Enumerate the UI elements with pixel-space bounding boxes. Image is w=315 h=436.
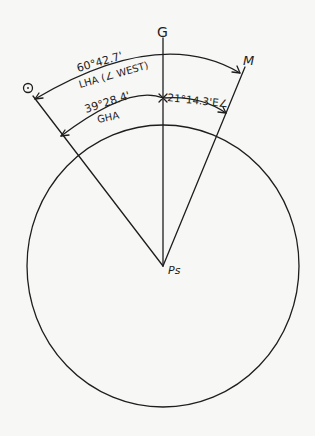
lha-arc (35, 54, 240, 99)
observer-marker-dot (27, 87, 29, 89)
east-value-label: 21°14.3'E∠ (167, 91, 229, 109)
gha-text-label: GHA (96, 110, 120, 125)
body-meridian-label: M (243, 53, 254, 68)
greenwich-label: G (157, 24, 168, 40)
hour-angle-diagram: G M Ps 60°42.7' LHA (∠ WEST) 39°28.4' GH… (0, 0, 315, 436)
pole-label: Ps (168, 264, 181, 277)
